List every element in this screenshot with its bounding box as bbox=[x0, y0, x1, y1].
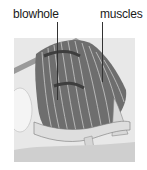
muscles-leader-line bbox=[102, 22, 103, 82]
blowhole-leader-line bbox=[57, 22, 58, 100]
muscles-label: muscles bbox=[100, 7, 143, 21]
blowhole-label: blowhole bbox=[13, 7, 59, 21]
muscle-illustration bbox=[14, 38, 135, 162]
